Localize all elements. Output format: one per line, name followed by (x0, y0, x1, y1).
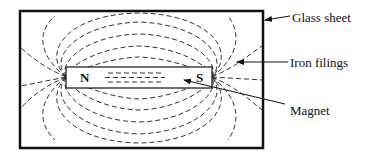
magnetic-field-diagram: N S Glass sheet Iron filings Magnet (0, 0, 366, 156)
magnet-label: Magnet (290, 103, 330, 118)
iron-filings-label: Iron filings (290, 55, 348, 70)
glass-sheet-label: Glass sheet (292, 10, 351, 25)
glass-sheet-arrow (265, 16, 290, 20)
north-pole-label: N (80, 70, 90, 85)
